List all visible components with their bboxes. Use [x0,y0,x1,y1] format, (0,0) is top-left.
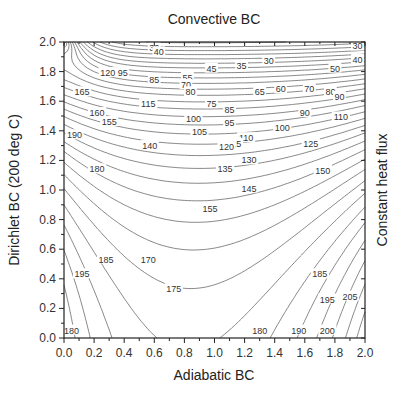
right-axis-label: Constant heat flux [374,134,390,247]
y-tick-label: 0.0 [39,331,56,345]
contour-label: 185 [99,255,114,265]
contour-label: 40 [154,47,164,57]
x-tick-label: 1.0 [206,346,223,360]
x-tick-label: 1.6 [296,346,313,360]
x-tick-label: 0.0 [56,346,73,360]
contour-label: 115 [141,99,155,109]
contour-chart: 3040304035304550551209585708016565607080… [0,0,403,397]
contour-label: 155 [202,204,217,214]
contour-label: 150 [315,166,330,176]
y-tick-label: 1.6 [39,94,56,108]
chart-title: Convective BC [168,11,261,27]
contour-label: 180 [90,164,105,174]
contour-label: 110 [334,112,348,122]
contour-label: 205 [342,292,357,302]
contour-label: 165 [75,87,90,97]
contour-label: 130 [242,155,257,165]
x-tick-label: 2.0 [357,346,374,360]
contour-label: 190 [67,130,82,140]
y-tick-label: 1.2 [39,153,56,167]
contour-label: 120 [219,142,234,152]
contour-label: 40 [352,55,362,65]
contour-label: 90 [334,92,344,102]
x-tick-label: 1.4 [266,346,283,360]
contour-label: 35 [237,61,247,71]
contour-labels: 3040304035304550551209585708016565607080… [62,40,363,335]
contour-label: 80 [185,87,195,97]
contour-label: 170 [141,255,156,265]
contour-label: 95 [118,68,128,78]
contour-label: 65 [255,87,265,97]
contour-line-185 [64,223,365,338]
contour-label: 200 [320,326,335,336]
contour-label: 30 [264,56,274,66]
contour-label: 60 [276,84,286,94]
y-tick-label: 1.8 [39,65,56,79]
x-tick-label: 1.8 [327,346,344,360]
contour-line-145 [64,133,365,169]
contour-label: 70 [304,84,314,94]
contour-label: 95 [225,118,235,128]
contour-label: 75 [206,99,216,109]
contour-label: 175 [166,284,181,294]
contour-label: 180 [252,326,267,336]
y-tick-label: 1.0 [39,183,56,197]
contour-line-80 [80,42,365,68]
y-tick-label: 0.4 [39,272,56,286]
contour-label: 155 [102,117,117,127]
contour-label: 100 [275,123,290,133]
contour-label: 185 [312,269,327,279]
contour-line-175 [64,193,365,338]
x-tick-label: 0.4 [116,346,133,360]
y-tick-label: 0.2 [39,301,56,315]
contour-label: 190 [291,326,306,336]
y-axis-label: Dirichlet BC (200 deg C) [6,114,22,266]
contour-label: 135 [218,164,233,174]
contour-label: 85 [149,75,159,85]
x-tick-label: 0.2 [86,346,103,360]
y-axis-ticks: 0.00.20.40.60.81.01.21.41.61.82.0 [39,35,365,345]
y-tick-label: 1.4 [39,124,56,138]
contour-label: 180 [64,326,79,336]
x-tick-label: 0.6 [146,346,163,360]
x-axis-label: Adiabatic BC [174,367,255,383]
contour-label: 195 [75,269,90,279]
contour-label: 195 [320,295,335,305]
contour-line-205 [357,312,365,338]
contour-label: 45 [206,64,216,74]
x-tick-label: 0.8 [176,346,193,360]
contour-label: 50 [330,64,340,74]
contour-label: 140 [142,141,157,151]
y-tick-label: 0.6 [39,242,56,256]
y-tick-label: 2.0 [39,35,56,49]
y-tick-label: 0.8 [39,213,56,227]
contour-label: 120 [100,68,115,78]
contour-label: 90 [300,108,310,118]
contour-label: 145 [242,184,257,194]
contour-label: 125 [303,139,318,149]
x-tick-label: 1.2 [236,346,253,360]
contour-label: 85 [225,105,235,115]
contour-label: 30 [352,41,362,51]
contour-label: 105 [192,127,207,137]
contour-label: 100 [186,114,201,124]
